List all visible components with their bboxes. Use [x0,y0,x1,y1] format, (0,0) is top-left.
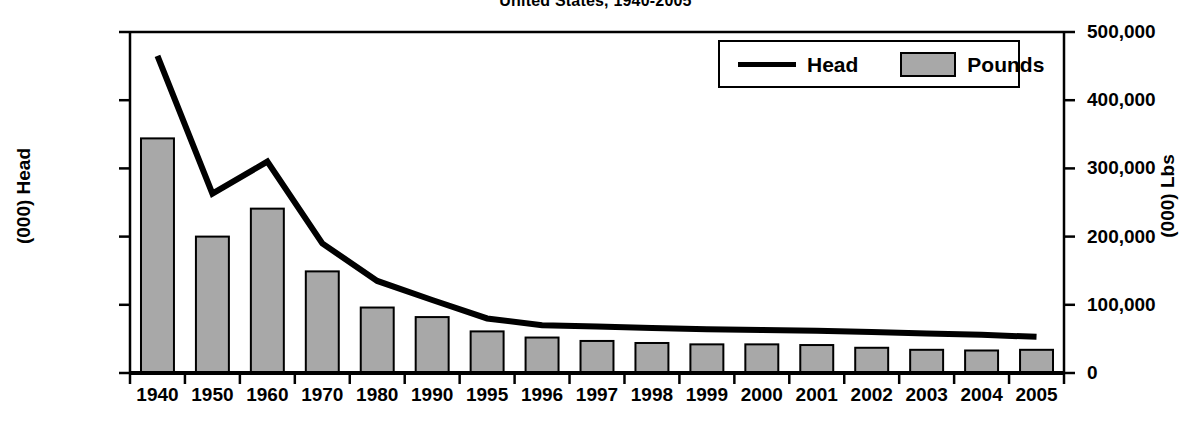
bar-2004 [965,350,998,373]
x-axis-tick-labels: 1940195019601970198019901995199619971998… [0,384,1191,414]
bar-1997 [581,341,614,373]
x-tick-label-1970: 1970 [295,384,350,406]
x-tick-label-2003: 2003 [899,384,954,406]
x-tick-label-1996: 1996 [515,384,570,406]
legend-item-head: Head [738,42,858,86]
x-tick-label-1980: 1980 [350,384,405,406]
bar-1998 [635,343,668,373]
bar-2002 [855,348,888,373]
x-tick-label-2005: 2005 [1009,384,1064,406]
bar-1999 [690,344,723,373]
chart-legend: Head Pounds [718,40,1020,88]
bar-1960 [251,209,284,373]
bar-1995 [471,331,504,373]
bar-2001 [800,345,833,373]
legend-rect-icon [900,52,956,77]
x-tick-label-1990: 1990 [405,384,460,406]
x-tick-label-2001: 2001 [789,384,844,406]
bar-2005 [1020,350,1053,373]
bar-1980 [361,308,394,373]
bar-2003 [910,350,943,373]
legend-label-pounds: Pounds [967,54,1044,75]
bar-1996 [526,338,559,373]
bar-1970 [306,271,339,373]
x-tick-label-1960: 1960 [240,384,295,406]
x-tick-label-2002: 2002 [844,384,899,406]
chart-container: United States, 1940-2005 (000) Head (000… [0,0,1191,427]
line-series-head [157,56,1036,337]
bar-1990 [416,317,449,373]
x-tick-label-1998: 1998 [624,384,679,406]
bar-2000 [745,344,778,373]
x-tick-label-2004: 2004 [954,384,1009,406]
x-tick-label-1995: 1995 [460,384,515,406]
x-tick-label-1940: 1940 [130,384,185,406]
head-line-path [157,56,1036,337]
x-tick-label-2000: 2000 [734,384,789,406]
legend-line-icon [738,62,796,67]
x-tick-label-1999: 1999 [679,384,734,406]
x-tick-label-1950: 1950 [185,384,240,406]
bar-1940 [141,138,174,373]
x-tick-label-1997: 1997 [570,384,625,406]
bar-1950 [196,237,229,373]
legend-label-head: Head [807,54,858,75]
legend-item-pounds: Pounds [900,42,1044,86]
